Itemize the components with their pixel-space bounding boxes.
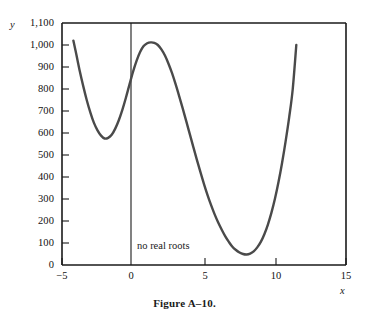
annotation-no-real-roots: no real roots: [137, 240, 190, 251]
y-tick-label-1000: 1,000: [8, 40, 54, 51]
y-tick-label-300: 300: [8, 194, 54, 205]
x-tick-label-minus5: −5: [47, 271, 77, 282]
y-tick-label-400: 400: [8, 172, 54, 183]
y-tick-label-100: 100: [8, 238, 54, 249]
x-tick-label-15: 15: [331, 271, 361, 282]
y-tick-label-600: 600: [8, 128, 54, 139]
x-tick-label-10: 10: [261, 271, 291, 282]
figure-container: y 1,100 1,000 900 800 700 600 500 400 30…: [0, 0, 369, 330]
y-tick-label-500: 500: [8, 150, 54, 161]
y-tick-label-1100: 1,100: [8, 18, 54, 29]
y-tick-label-700: 700: [8, 106, 54, 117]
y-tick-label-800: 800: [8, 84, 54, 95]
y-tick-label-900: 900: [8, 62, 54, 73]
x-tick-label-5: 5: [190, 271, 220, 282]
data-curve: [73, 41, 296, 255]
y-tick-marks: [62, 45, 69, 243]
y-tick-label-200: 200: [8, 216, 54, 227]
x-tick-marks: [62, 258, 346, 265]
figure-caption: Figure A–10.: [0, 297, 369, 309]
y-tick-label-0: 0: [8, 260, 54, 271]
x-tick-label-0: 0: [116, 271, 146, 282]
axis-frame: [62, 23, 346, 265]
x-axis-title: x: [340, 285, 345, 296]
